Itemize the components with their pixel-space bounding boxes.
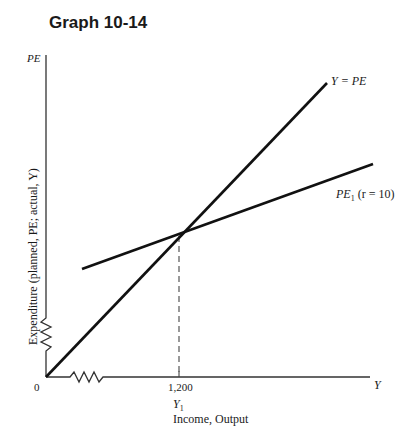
y-axis-symbol-label: PE (26, 52, 41, 64)
x-axis-title: Income, Output (173, 412, 249, 426)
origin-label: 0 (34, 381, 40, 393)
label-pe1-suffix: (r = 10) (355, 187, 395, 201)
y1-label: Y1 (173, 397, 184, 413)
label-pe1-main: PE (335, 187, 351, 201)
y-axis-title: Expenditure (planned, PE; actual, Y) (26, 168, 40, 345)
y-axis-title-text: Expenditure (planned, PE; actual, Y) (26, 168, 40, 345)
chart-plot-area: PE Expenditure (planned, PE; actual, Y) … (0, 0, 419, 443)
x-axis-symbol-label: Y (374, 378, 382, 392)
label-y-equals-pe: Y = PE (331, 74, 367, 88)
x-tick-label-1200: 1,200 (168, 381, 193, 393)
line-pe1 (82, 164, 373, 269)
x-axis (46, 372, 370, 382)
label-pe1: PE1 (r = 10) (335, 187, 394, 203)
y-axis (41, 55, 51, 377)
